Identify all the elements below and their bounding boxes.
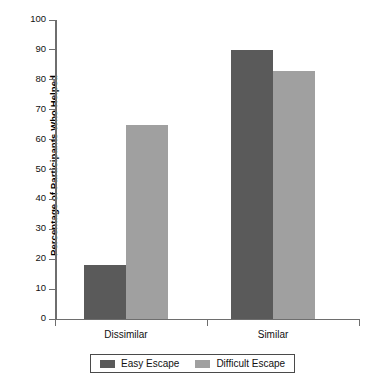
y-axis-tick-label: 20 (16, 252, 46, 263)
bar-dissimilar-difficult-escape (126, 125, 168, 319)
bar-similar-easy-escape (231, 50, 273, 319)
chart-legend: Easy EscapeDifficult Escape (90, 354, 295, 373)
legend-label: Easy Escape (121, 358, 179, 369)
y-axis-tick-label: 60 (16, 133, 46, 144)
bar-similar-difficult-escape (273, 71, 315, 319)
plot-area (55, 20, 360, 319)
y-axis-tick-label: 100 (16, 13, 46, 24)
y-axis-tick-label: 90 (16, 43, 46, 54)
legend-label: Difficult Escape (216, 358, 285, 369)
legend-item-easy-escape: Easy Escape (100, 358, 179, 369)
y-axis-tick-label: 0 (16, 312, 46, 323)
x-axis-tick (359, 320, 360, 326)
bar-chart: Percentage of Participants Who Helped 10… (0, 0, 368, 387)
legend-swatch-icon (100, 360, 115, 368)
y-axis-tick-label: 70 (16, 103, 46, 114)
legend-swatch-icon (195, 360, 210, 368)
y-axis-tick-label: 80 (16, 73, 46, 84)
y-axis-tick-label: 50 (16, 163, 46, 174)
x-axis-tick (207, 320, 208, 326)
y-axis-tick-label: 40 (16, 192, 46, 203)
x-axis-label-similar: Similar (213, 329, 333, 340)
y-axis-tick-label: 30 (16, 222, 46, 233)
x-axis-tick (55, 320, 56, 326)
bar-dissimilar-easy-escape (84, 265, 126, 319)
x-axis-label-dissimilar: Dissimilar (66, 329, 186, 340)
legend-item-difficult-escape: Difficult Escape (195, 358, 285, 369)
y-axis-tick-label: 10 (16, 282, 46, 293)
